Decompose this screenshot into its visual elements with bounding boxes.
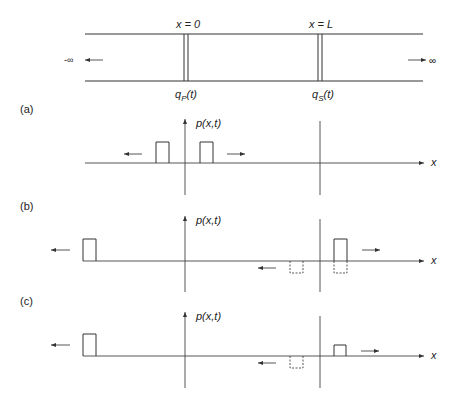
panel-b-image-pulse-dashed [334,261,347,273]
boundary-x0-label: x = 0 [175,18,201,30]
panel-b-label: (b) [20,200,33,212]
boundary-x0 [184,34,188,81]
panel-a: (a) p(x,t) x [20,103,437,195]
channel-schematic: x = 0 x = L -∞ ∞ qP(t) qS(t) [64,18,436,103]
panel-b-reflected-pulse-dashed [290,261,303,273]
panel-c-transmitted-pulse [334,345,346,356]
panel-a-left-pulse [156,142,169,163]
panel-a-label: (a) [20,103,33,115]
panel-c: (c) p(x,t) x [20,295,437,388]
panel-c-label: (c) [20,295,33,307]
panel-b-transmitted-pulse [334,239,347,261]
panel-b: (b) p(x,t) x [20,200,437,292]
panel-c-left-pulse [83,334,96,356]
panel-c-x-label: x [430,349,437,361]
panel-c-y-label: p(x,t) [195,310,221,322]
panel-b-x-label: x [430,254,437,266]
source-qs-label: qS(t) [312,88,334,103]
panel-b-left-pulse [83,239,96,261]
panel-a-y-label: p(x,t) [195,117,221,129]
panel-a-right-pulse [200,142,213,163]
boundary-xL [318,34,322,81]
plus-infinity-label: ∞ [429,55,436,66]
boundary-xL-label: x = L [308,18,333,30]
panel-c-reflected-pulse-dashed [290,356,303,368]
minus-infinity-label: -∞ [64,55,73,65]
panel-b-y-label: p(x,t) [195,214,221,226]
panel-a-x-label: x [430,156,437,168]
source-qp-label: qP(t) [175,88,197,103]
wave-propagation-diagram: x = 0 x = L -∞ ∞ qP(t) qS(t) (a) p(x,t) … [0,0,455,402]
